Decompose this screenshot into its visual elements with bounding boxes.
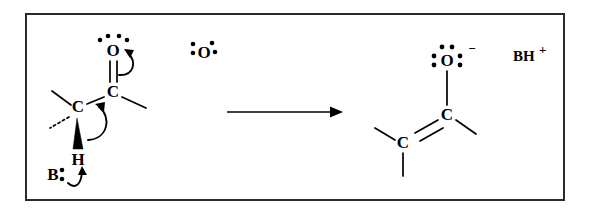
stray-oxygen-label: O (197, 43, 210, 62)
carbonyl-methyl-bond (122, 97, 146, 108)
carbonyl-double-bond (110, 61, 117, 82)
product-cc-double-bond (415, 120, 443, 141)
product-carbon-right-label: C (441, 105, 453, 124)
alpha-hydrogen-wedge (73, 118, 83, 149)
enolate-negative-charge: − (468, 41, 475, 56)
alpha-methyl-up-bond (52, 91, 71, 105)
reactant-carbonyl-carbon-label: C (107, 82, 119, 101)
curved-arrow-pi-to-oxygen-head (124, 49, 134, 58)
reactant-alpha-carbon-label: C (72, 97, 84, 116)
curved-arrow-pi-to-oxygen (119, 53, 133, 75)
product-left-methyl-up-bond (375, 128, 395, 140)
base-lone-pair (60, 168, 65, 182)
reaction-arrow (227, 107, 343, 118)
product-carbon-left-label: C (397, 133, 409, 152)
alpha-methyl-dashed-bond (50, 117, 69, 128)
conjugate-acid-charge: + (539, 42, 546, 57)
curved-arrow-ch-to-cc (88, 107, 107, 140)
alpha-hydrogen-label: H (71, 150, 84, 169)
conjugate-acid-label: BH (513, 48, 535, 64)
figure-canvas: O C C H (0, 0, 589, 213)
reaction-scheme: O C C H (0, 0, 589, 213)
reactant-carbonyl-oxygen-label: O (106, 41, 119, 60)
product-right-methyl-bond (456, 120, 476, 134)
base-label: B (47, 165, 58, 184)
product-enolate-oxygen-label: O (440, 51, 453, 70)
curved-arrow-ch-to-cc-head (95, 102, 105, 112)
